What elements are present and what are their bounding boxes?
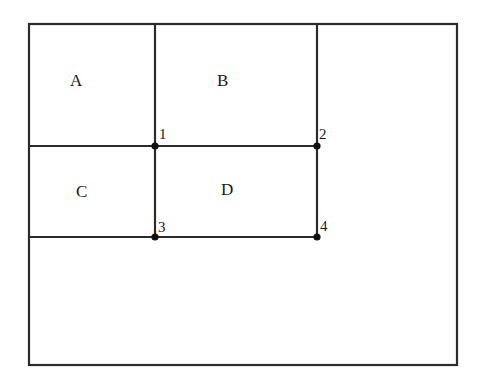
outer-boundary — [29, 24, 457, 365]
region-label-d: D — [221, 180, 233, 199]
region-label-b: B — [217, 71, 228, 90]
point-1-dot — [151, 142, 158, 149]
point-label-4: 4 — [320, 218, 328, 234]
point-label-2: 2 — [319, 126, 327, 142]
point-label-3: 3 — [158, 219, 166, 235]
point-label-1: 1 — [159, 126, 167, 142]
point-2-dot — [313, 142, 320, 149]
region-label-c: C — [76, 182, 87, 201]
point-4-dot — [313, 233, 320, 240]
region-label-a: A — [70, 71, 83, 90]
grid-partition-diagram: A B C D 1 2 3 4 — [0, 0, 481, 387]
